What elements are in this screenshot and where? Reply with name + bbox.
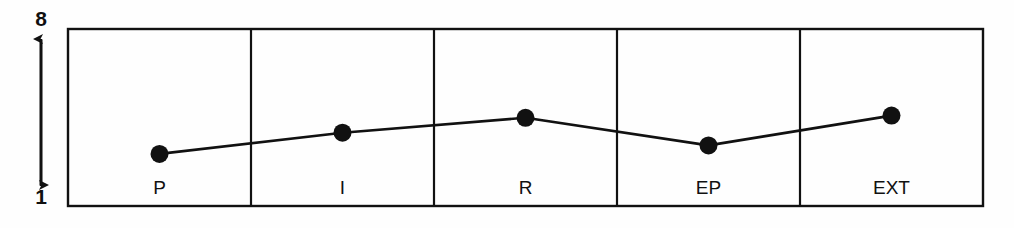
data-point-i [334, 124, 352, 142]
chart-figure: 8 1 PIREPEXT [0, 0, 1014, 228]
data-point-markers [151, 107, 901, 163]
category-label-i: I [340, 178, 345, 197]
category-label-r: R [519, 178, 533, 197]
chart-plot-area [0, 0, 1014, 228]
category-label-ep: EP [696, 178, 721, 197]
category-label-p: P [153, 178, 166, 197]
data-point-ep [700, 136, 718, 154]
data-point-ext [883, 107, 901, 125]
data-point-r [517, 109, 535, 127]
category-label-ext: EXT [873, 178, 910, 197]
data-point-p [151, 145, 169, 163]
